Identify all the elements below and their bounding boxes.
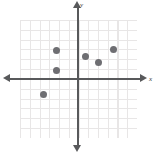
data-point (53, 47, 60, 54)
data-point (110, 46, 117, 53)
data-point (53, 67, 60, 74)
y-axis-label: y (80, 2, 83, 9)
data-point (95, 59, 102, 66)
data-point (82, 53, 89, 60)
scatter-plot-figure: x y (0, 0, 157, 154)
x-axis-left-arrow-icon (3, 74, 10, 82)
y-axis-line (77, 6, 79, 148)
x-axis-label: x (149, 76, 152, 83)
data-point (40, 91, 47, 98)
x-axis-line (8, 78, 143, 80)
x-axis-right-arrow-icon (140, 74, 147, 82)
y-axis-down-arrow-icon (73, 145, 81, 152)
